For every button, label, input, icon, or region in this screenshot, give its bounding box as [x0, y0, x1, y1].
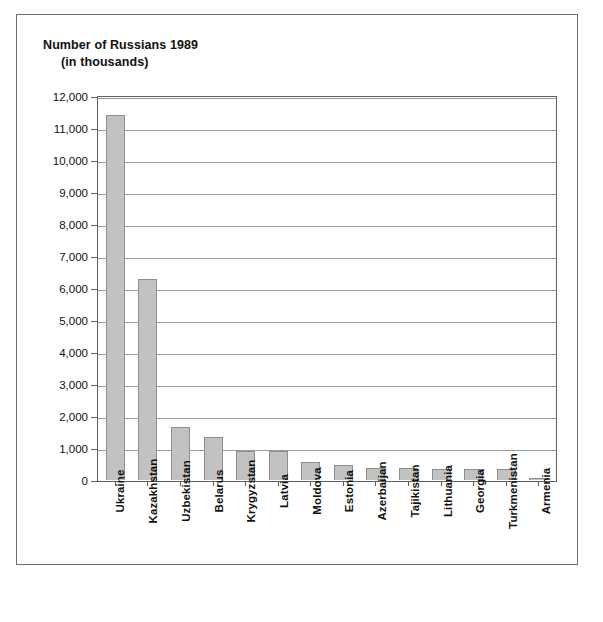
x-axis-tick-label: Turkmenistan — [507, 453, 519, 529]
bar — [138, 279, 157, 480]
bar-slot — [392, 98, 425, 480]
y-axis-tick — [91, 321, 97, 322]
figure-frame: Number of Russians 1989 (in thousands) 1… — [16, 14, 578, 565]
y-axis-tick-label: 12,000 — [53, 91, 88, 103]
x-axis-label-slot: Latvia — [262, 489, 295, 585]
x-axis-label-slot: Armenia — [523, 489, 556, 585]
plot-wrapper: 12,00011,00010,0009,0008,0007,0006,0005,… — [97, 96, 557, 482]
x-axis-tick-label: Armenia — [540, 468, 552, 515]
x-axis-label-slot: Lithuania — [425, 489, 458, 585]
y-axis-tick-label: 4,000 — [59, 347, 88, 359]
x-axis-tick-label: Georgia — [474, 469, 486, 513]
y-axis-tick-label: 7,000 — [59, 251, 88, 263]
plot-area — [97, 96, 557, 482]
bar-slot — [262, 98, 295, 480]
bar-series — [99, 98, 555, 480]
y-axis-tick-label: 3,000 — [59, 379, 88, 391]
bar-slot — [457, 98, 490, 480]
x-axis-tick-label: Ukraine — [114, 470, 126, 513]
y-axis-tick-label: 10,000 — [53, 155, 88, 167]
y-axis-tick-label: 5,000 — [59, 315, 88, 327]
y-axis-tick — [91, 353, 97, 354]
bar-slot — [164, 98, 197, 480]
x-axis-tick-label: Kazakhstan — [147, 459, 159, 524]
bar-slot — [425, 98, 458, 480]
x-axis-label-slot: Turkmenistan — [491, 489, 524, 585]
bar-slot — [229, 98, 262, 480]
y-axis-tick — [91, 129, 97, 130]
x-axis-label-slot: Ukraine — [98, 489, 131, 585]
bar-slot — [360, 98, 393, 480]
x-axis-label-slot: Krygyzstan — [229, 489, 262, 585]
y-axis-tick — [91, 225, 97, 226]
y-axis-tick — [91, 481, 97, 482]
x-axis-tick-label: Krygyzstan — [245, 460, 257, 523]
bar-slot — [197, 98, 230, 480]
x-axis-tick-label: Lithuania — [442, 465, 454, 517]
bar-slot — [523, 98, 556, 480]
x-axis-label-slot: Uzbekistan — [163, 489, 196, 585]
y-axis-tick — [91, 385, 97, 386]
y-axis-tick-label: 6,000 — [59, 283, 88, 295]
y-axis-tick-label: 11,000 — [54, 123, 88, 135]
bar-slot — [327, 98, 360, 480]
y-axis-tick — [91, 449, 97, 450]
x-axis-label-slot: Kazakhstan — [131, 489, 164, 585]
bar-slot — [490, 98, 523, 480]
y-axis-tick — [91, 257, 97, 258]
x-axis-label-slot: Tajikistan — [392, 489, 425, 585]
bar-slot — [99, 98, 132, 480]
x-axis-label-slot: Belarus — [196, 489, 229, 585]
bar-slot — [132, 98, 165, 480]
x-axis-ticks — [99, 481, 555, 486]
x-axis-tick-label: Latvia — [278, 474, 290, 508]
y-axis-tick — [91, 289, 97, 290]
y-axis-tick — [91, 97, 97, 98]
x-axis-label-slot: Azerbaijan — [360, 489, 393, 585]
bar — [106, 115, 125, 480]
x-axis-label-slot: Moldova — [294, 489, 327, 585]
y-axis-tick-label: 8,000 — [59, 219, 88, 231]
x-axis-labels: UkraineKazakhstanUzbekistanBelarusKrygyz… — [98, 489, 556, 585]
y-axis-tick — [91, 417, 97, 418]
x-axis-tick-label: Estonia — [343, 470, 355, 512]
y-axis-tick-label: 1,000 — [59, 443, 88, 455]
x-axis-tick-label: Azerbaijan — [376, 461, 388, 520]
x-axis-tick-label: Moldova — [311, 467, 323, 514]
chart-title-block: Number of Russians 1989 (in thousands) — [43, 37, 198, 70]
x-axis-label-slot: Estonia — [327, 489, 360, 585]
y-axis-tick — [91, 193, 97, 194]
y-axis-tick-label: 9,000 — [59, 187, 88, 199]
x-axis-label-slot: Georgia — [458, 489, 491, 585]
x-axis-tick-label: Tajikistan — [409, 464, 421, 517]
y-axis-tick — [91, 161, 97, 162]
chart-subtitle: (in thousands) — [43, 54, 198, 71]
page-title: Number of Russians 1989 — [43, 37, 198, 54]
y-axis-tick-label: 2,000 — [59, 411, 88, 423]
x-axis-tick-label: Belarus — [213, 470, 225, 513]
x-axis-tick-label: Uzbekistan — [180, 460, 192, 522]
bar-slot — [294, 98, 327, 480]
y-axis-tick-label: 0 — [82, 475, 88, 487]
